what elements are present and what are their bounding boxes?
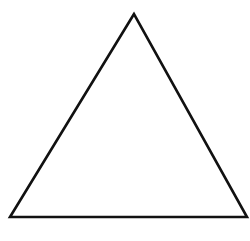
triangle-shape	[10, 14, 247, 217]
diagram-canvas	[0, 0, 250, 241]
triangle-diagram	[0, 0, 250, 241]
